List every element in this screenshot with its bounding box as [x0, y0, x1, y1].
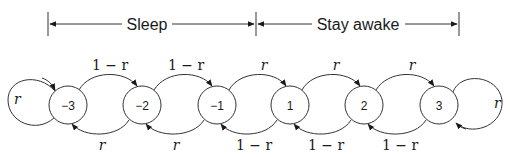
- loop-label-3: r: [494, 95, 502, 111]
- self-loop-3: r: [453, 79, 502, 130]
- svg-text:−1: −1: [210, 99, 224, 113]
- svg-text:1: 1: [287, 99, 294, 113]
- node-minus3: −3: [49, 86, 87, 124]
- edge-label-bot-1-m1: 1 − r: [236, 137, 273, 153]
- node-2: 2: [345, 86, 383, 124]
- edge-label-bot-2-1: 1 − r: [308, 137, 345, 153]
- stay-awake-bracket: Stay awake: [258, 12, 459, 36]
- svg-text:−2: −2: [135, 99, 149, 113]
- edge-label-top-2-3: r: [409, 57, 417, 73]
- node-minus1: −1: [198, 86, 236, 124]
- node-3: 3: [420, 86, 458, 124]
- stay-awake-label: Stay awake: [317, 16, 400, 33]
- sleep-bracket: Sleep: [48, 12, 256, 36]
- svg-text:−3: −3: [61, 99, 75, 113]
- bottom-edges: r r 1 − r 1 − r 1 − r: [72, 120, 426, 153]
- edge-label-top-m2-m1: 1 − r: [168, 57, 205, 73]
- sleep-label: Sleep: [127, 16, 168, 33]
- edge-label-bot-3-2: 1 − r: [382, 137, 419, 153]
- edge-label-top-1-2: r: [333, 57, 341, 73]
- top-edges: 1 − r 1 − r r r r: [79, 57, 434, 90]
- svg-text:3: 3: [436, 99, 443, 113]
- markov-chain-diagram: Sleep Stay awake r r 1 − r 1 − r r r r: [0, 0, 510, 157]
- node-1: 1: [271, 86, 309, 124]
- edge-label-top-m1-1: r: [261, 57, 269, 73]
- edge-label-bot-m2-m3: r: [99, 137, 107, 153]
- node-minus2: −2: [123, 86, 161, 124]
- svg-text:2: 2: [361, 99, 368, 113]
- loop-label-minus3: r: [14, 91, 22, 107]
- self-loop-minus3: r: [8, 78, 55, 125]
- edge-label-top-m3-m2: 1 − r: [92, 57, 129, 73]
- edge-label-bot-m1-m2: r: [173, 137, 181, 153]
